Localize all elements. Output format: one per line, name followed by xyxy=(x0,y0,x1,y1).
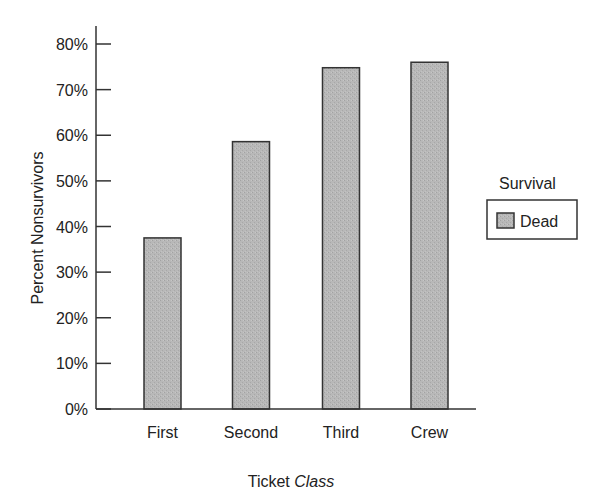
y-tick-label: 50% xyxy=(56,173,88,190)
x-axis: FirstSecondThirdCrew xyxy=(96,409,476,441)
x-axis-title: Ticket Class xyxy=(248,473,335,490)
y-tick-label: 20% xyxy=(56,310,88,327)
y-tick-label: 30% xyxy=(56,264,88,281)
y-tick-label: 70% xyxy=(56,82,88,99)
x-title-regular: Ticket xyxy=(248,473,295,490)
y-tick-label: 40% xyxy=(56,219,88,236)
bar-second xyxy=(233,142,270,409)
x-tick-label: Third xyxy=(323,424,359,441)
y-tick-label: 10% xyxy=(56,355,88,372)
y-tick-label: 0% xyxy=(65,401,88,418)
x-title-italic: Class xyxy=(294,473,334,490)
legend-label-dead: Dead xyxy=(520,213,558,230)
bars xyxy=(144,62,448,409)
bar-crew xyxy=(411,62,448,409)
legend: Survival Dead xyxy=(487,175,577,239)
x-tick-label: Second xyxy=(224,424,278,441)
x-tick-label: Crew xyxy=(411,424,449,441)
y-axis: 0%10%20%30%40%50%60%70%80% xyxy=(56,26,111,418)
x-tick-label: First xyxy=(147,424,179,441)
bar-first xyxy=(144,238,181,409)
bar-third xyxy=(323,68,360,409)
legend-title: Survival xyxy=(499,175,556,192)
bar-chart: 0%10%20%30%40%50%60%70%80% FirstSecondTh… xyxy=(0,0,605,491)
legend-swatch-dead xyxy=(497,213,514,228)
y-axis-title: Percent Nonsurvivors xyxy=(29,152,46,305)
y-tick-label: 80% xyxy=(56,36,88,53)
y-tick-label: 60% xyxy=(56,127,88,144)
